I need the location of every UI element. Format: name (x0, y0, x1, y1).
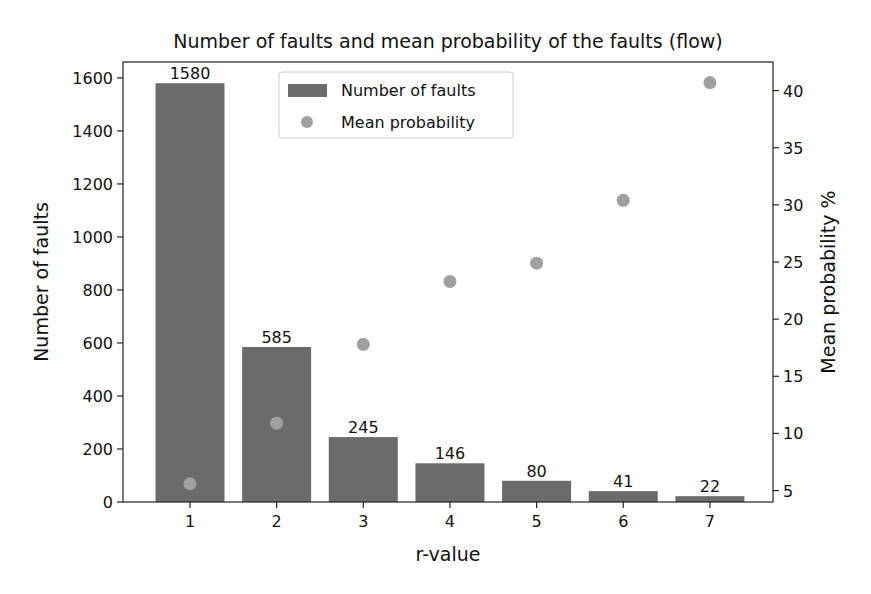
y-axis-left: 02004006008001000120014001600 (72, 69, 123, 512)
y-right-tick-label: 35 (783, 139, 803, 158)
x-tick-label: 6 (618, 512, 628, 531)
probability-point-r5 (530, 257, 543, 270)
y-right-tick-label: 20 (783, 310, 803, 329)
bar-value-label: 585 (261, 328, 292, 347)
probability-point-r1 (184, 477, 197, 490)
chart: Number of faults and mean probability of… (0, 0, 871, 594)
x-tick-label: 1 (185, 512, 195, 531)
y-tick-label: 1000 (72, 228, 113, 247)
x-tick-label: 7 (705, 512, 715, 531)
bar-value-label: 41 (613, 472, 633, 491)
bar-r6 (589, 491, 658, 502)
y-tick-label: 1400 (72, 122, 113, 141)
legend-label-probability: Mean probability (341, 113, 475, 132)
y-right-tick-label: 25 (783, 253, 803, 272)
x-tick-label: 4 (445, 512, 455, 531)
y-right-tick-label: 40 (783, 82, 803, 101)
y-tick-label: 1600 (72, 69, 113, 88)
bar-r7 (675, 496, 744, 502)
x-tick-label: 5 (532, 512, 542, 531)
y-tick-label: 800 (82, 281, 113, 300)
y-tick-label: 600 (82, 334, 113, 353)
y-axis-right-label: Mean probability % (817, 190, 839, 373)
probability-point-r3 (357, 338, 370, 351)
probability-point-r6 (617, 194, 630, 207)
legend-dot-swatch-icon (301, 116, 313, 128)
probability-point-r4 (443, 275, 456, 288)
y-tick-label: 200 (82, 440, 113, 459)
y-right-tick-label: 10 (783, 424, 803, 443)
x-tick-label: 2 (272, 512, 282, 531)
y-tick-label: 1200 (72, 175, 113, 194)
x-axis: 1234567 (185, 502, 715, 531)
legend-bar-swatch-icon (288, 84, 327, 97)
probability-point-r7 (703, 76, 716, 89)
legend-label-faults: Number of faults (341, 81, 476, 100)
bar-r4 (415, 463, 484, 502)
bar-value-label: 22 (700, 477, 720, 496)
x-tick-label: 3 (358, 512, 368, 531)
y-tick-label: 400 (82, 387, 113, 406)
chart-title: Number of faults and mean probability of… (173, 30, 722, 52)
bar-r5 (502, 481, 571, 502)
y-tick-label: 0 (103, 493, 113, 512)
y-right-tick-label: 30 (783, 196, 803, 215)
y-axis-left-label: Number of faults (30, 202, 52, 362)
bar-value-label: 245 (348, 418, 379, 437)
y-axis-right: 510152025303540 (773, 82, 803, 501)
y-right-tick-label: 5 (783, 482, 793, 501)
bar-value-label: 80 (526, 462, 546, 481)
y-right-tick-label: 15 (783, 367, 803, 386)
bar-r3 (329, 437, 398, 502)
bar-r1 (156, 83, 225, 502)
bar-value-label: 1580 (170, 64, 211, 83)
x-axis-label: r-value (416, 543, 481, 565)
probability-point-r2 (270, 417, 283, 430)
bar-value-label: 146 (435, 444, 466, 463)
legend: Number of faults Mean probability (279, 72, 513, 138)
